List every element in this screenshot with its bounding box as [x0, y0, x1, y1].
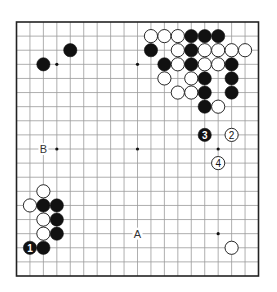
- white-stone: [185, 86, 198, 99]
- white-stone: [198, 44, 211, 57]
- move-number: 1: [27, 243, 33, 254]
- white-stone: [238, 44, 251, 57]
- white-stone: [185, 72, 198, 85]
- hoshi-point: [136, 147, 139, 150]
- black-stone: [144, 44, 157, 57]
- white-stone: [37, 185, 50, 198]
- black-stone: [185, 44, 198, 57]
- black-stone: [37, 58, 50, 71]
- move-number: 3: [202, 130, 208, 141]
- black-stone: [198, 72, 211, 85]
- black-stone: [50, 227, 63, 240]
- white-stone: [158, 30, 171, 43]
- white-stone: [171, 58, 184, 71]
- marker-a: A: [134, 228, 142, 240]
- white-stone: [37, 213, 50, 226]
- black-stone: [225, 58, 238, 71]
- white-stone: [171, 44, 184, 57]
- move-number: 2: [229, 130, 235, 141]
- black-stone: [225, 86, 238, 99]
- hoshi-point: [55, 147, 58, 150]
- black-stone: [158, 58, 171, 71]
- black-stone: [198, 100, 211, 113]
- white-stone: [225, 241, 238, 254]
- black-stone: [50, 199, 63, 212]
- black-stone: [198, 86, 211, 99]
- black-stone: [50, 213, 63, 226]
- white-stone: [212, 100, 225, 113]
- marker-b: B: [40, 143, 47, 155]
- white-stone: [171, 86, 184, 99]
- white-stone: [171, 30, 184, 43]
- move-number: 4: [215, 158, 221, 169]
- black-stone: [198, 30, 211, 43]
- black-stone: [185, 58, 198, 71]
- hoshi-point: [55, 63, 58, 66]
- go-board: AB 3241: [0, 0, 277, 292]
- black-stone: [185, 30, 198, 43]
- white-stone: [198, 58, 211, 71]
- black-stone: [64, 44, 77, 57]
- white-stone: [225, 44, 238, 57]
- black-stone: [37, 199, 50, 212]
- white-stone: [37, 227, 50, 240]
- hoshi-point: [217, 147, 220, 150]
- white-stone: [212, 44, 225, 57]
- black-stone: [37, 241, 50, 254]
- black-stone: [225, 72, 238, 85]
- white-stone: [212, 58, 225, 71]
- hoshi-point: [136, 63, 139, 66]
- white-stone: [144, 30, 157, 43]
- white-stone: [23, 199, 36, 212]
- hoshi-point: [217, 232, 220, 235]
- black-stone: [212, 30, 225, 43]
- white-stone: [158, 72, 171, 85]
